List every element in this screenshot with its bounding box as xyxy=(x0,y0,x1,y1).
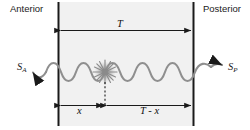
anterior-signal-arrow xyxy=(33,72,46,77)
posterior-signal-label: SP xyxy=(228,62,238,74)
left-segment-label: x xyxy=(77,106,82,117)
diagram-canvas: Anterior Posterior T SA SP x T - x xyxy=(0,0,250,130)
posterior-signal-subscript: P xyxy=(233,66,237,74)
total-length-label: T xyxy=(117,19,123,30)
right-segment-label: T - x xyxy=(140,106,159,117)
anterior-label: Anterior xyxy=(10,4,43,14)
anterior-signal-label: SA xyxy=(17,62,27,74)
source-burst-icon xyxy=(93,60,117,84)
posterior-label: Posterior xyxy=(203,4,241,14)
anterior-signal-subscript: A xyxy=(22,66,26,74)
posterior-signal-arrow xyxy=(211,64,222,67)
diagram-svg xyxy=(0,0,250,130)
